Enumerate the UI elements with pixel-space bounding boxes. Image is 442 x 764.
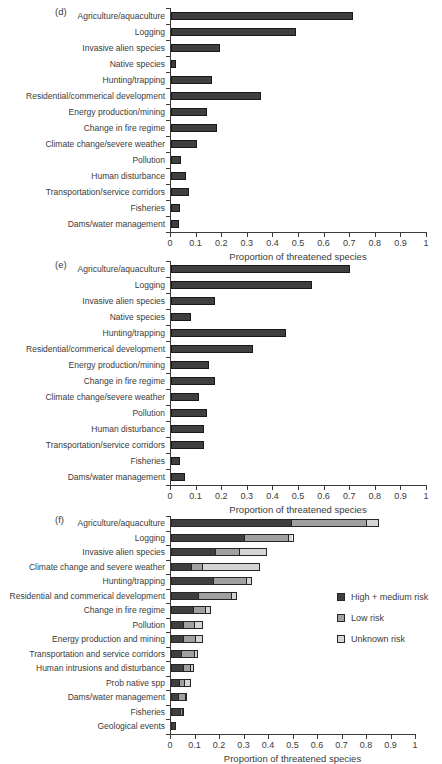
bar-segment-low_risk <box>291 520 366 526</box>
category-label: Residential/commerical development <box>26 91 165 101</box>
stacked-bar <box>171 621 203 629</box>
category-label: Energy production/mining <box>69 360 165 370</box>
stacked-bar <box>171 708 184 716</box>
x-tick-label: 0.4 <box>266 491 279 501</box>
legend: High + medium riskLow riskUnknown risk <box>337 586 428 649</box>
y-axis-tick <box>166 341 170 342</box>
x-tick-label: 1 <box>423 238 428 248</box>
bar-row <box>171 72 427 88</box>
legend-item: Low risk <box>337 607 428 628</box>
legend-item: Unknown risk <box>337 628 428 649</box>
bar-segment-high_medium_risk <box>172 665 183 671</box>
x-tick-label: 0.4 <box>266 238 279 248</box>
x-axis-tick <box>170 486 171 490</box>
x-tick-label: 0.9 <box>394 238 407 248</box>
bar-row <box>171 341 427 357</box>
y-axis-tick <box>166 152 170 153</box>
bar <box>171 377 215 385</box>
category-label: Climate change/severe weather <box>45 139 165 149</box>
y-axis-tick <box>166 469 170 470</box>
y-axis-tick <box>166 309 170 310</box>
category-label: Pollution <box>132 155 165 165</box>
y-axis-tick <box>166 603 170 604</box>
stacked-bar <box>171 679 191 687</box>
bar-row <box>171 676 416 691</box>
bar <box>171 140 197 148</box>
bar-row <box>171 136 427 152</box>
y-axis-tick <box>166 72 170 73</box>
category-label: Change in fire regime <box>84 123 165 133</box>
y-axis-tick <box>166 618 170 619</box>
bar-segment-high_medium_risk <box>172 564 191 570</box>
bar-row <box>171 690 416 705</box>
category-label: Dams/water management <box>68 692 165 702</box>
category-label: Prob native spp <box>106 678 165 688</box>
y-axis-tick <box>166 690 170 691</box>
category-label: Human disturbance <box>91 171 165 181</box>
bar <box>171 297 215 305</box>
bar-segment-high_medium_risk <box>172 607 193 613</box>
category-label: Invasive alien species <box>82 43 165 53</box>
category-labels: Agriculture/aquacultureLoggingInvasive a… <box>0 516 170 734</box>
category-label: Fisheries <box>131 456 165 466</box>
category-labels: Agriculture/aquacultureLoggingInvasive a… <box>0 261 170 485</box>
bar <box>171 313 191 321</box>
low_risk-swatch <box>337 614 345 622</box>
bar-segment-unknown_risk <box>246 578 251 584</box>
x-axis-tick <box>298 486 299 490</box>
category-label: Agriculture/aquaculture <box>78 264 165 274</box>
x-tick-label: 0.2 <box>213 740 226 750</box>
x-tick-label: 0.3 <box>237 740 250 750</box>
bar-row <box>171 152 427 168</box>
y-axis-tick <box>166 373 170 374</box>
x-axis-tick <box>400 233 401 237</box>
y-axis-tick <box>166 120 170 121</box>
x-tick-label: 1 <box>412 740 417 750</box>
y-axis-tick <box>166 705 170 706</box>
y-axis-tick <box>166 24 170 25</box>
bar-segment-low_risk <box>215 549 239 555</box>
x-axis-tick <box>317 735 318 739</box>
y-axis-tick <box>166 531 170 532</box>
x-axis-tick <box>426 233 427 237</box>
bar-segment-high_medium_risk <box>172 622 183 628</box>
category-label: Dams/water management <box>68 219 165 229</box>
category-label: Residential/commerical development <box>26 344 165 354</box>
bar-segment-low_risk <box>183 622 193 628</box>
bar-row <box>171 469 427 485</box>
category-label: Pollution <box>132 620 165 630</box>
x-axis-title: Proportion of threatened species <box>224 753 361 764</box>
category-label: Energy production and mining <box>52 634 165 644</box>
y-axis-tick <box>166 56 170 57</box>
y-axis-tick <box>166 8 170 9</box>
y-axis-tick <box>166 104 170 105</box>
stacked-bar <box>171 693 187 701</box>
y-axis-tick <box>166 184 170 185</box>
bar-segment-high_medium_risk <box>172 535 244 541</box>
x-tick-label: 0.1 <box>189 491 202 501</box>
category-label: Native species <box>110 312 165 322</box>
bar-row <box>171 8 427 24</box>
y-axis-tick <box>166 405 170 406</box>
bar-row <box>171 357 427 373</box>
y-axis-tick <box>166 453 170 454</box>
bar <box>171 473 185 481</box>
bar-row <box>171 40 427 56</box>
bar <box>171 60 176 68</box>
category-label: Invasive alien species <box>82 547 165 557</box>
bar <box>171 12 353 20</box>
bar <box>171 345 253 353</box>
bar-segment-unknown_risk <box>205 607 211 613</box>
y-axis-tick <box>166 168 170 169</box>
x-axis: 00.10.20.30.40.50.60.70.80.91 <box>170 486 426 504</box>
legend-label: Low risk <box>351 613 384 623</box>
legend-label: Unknown risk <box>351 634 405 644</box>
x-tick-label: 0.4 <box>262 740 275 750</box>
bar-row <box>171 56 427 72</box>
category-label: Logging <box>135 27 165 37</box>
y-axis-tick <box>166 719 170 720</box>
bar-row <box>171 373 427 389</box>
x-axis-tick <box>221 233 222 237</box>
stacked-bar <box>171 534 294 542</box>
bar-row <box>171 719 416 734</box>
